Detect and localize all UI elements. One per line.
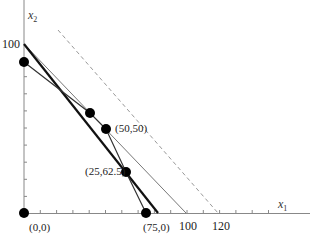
feasible-path (24, 62, 146, 213)
lp-diagram: 100 100 120 (0,0) (50,50) (25,62.5) (75,… (0, 0, 315, 238)
y-tick-100: 100 (2, 37, 20, 51)
point-vertex (85, 108, 95, 118)
point-50-50 (101, 124, 111, 134)
label-25-62-5: (25,62.5) (85, 165, 126, 178)
x-axis-label: x1 (277, 197, 287, 213)
label-50-50: (50,50) (115, 122, 147, 135)
point-y-intercept (19, 57, 29, 67)
point-75-0 (141, 208, 151, 218)
x-tick-100: 100 (179, 219, 197, 233)
point-origin (19, 208, 29, 218)
x-tick-120: 120 (212, 219, 230, 233)
label-75-0: (75,0) (143, 221, 170, 234)
diagram-canvas: 100 100 120 (0,0) (50,50) (25,62.5) (75,… (0, 0, 315, 238)
label-origin: (0,0) (29, 221, 50, 234)
y-axis-label: x2 (27, 8, 37, 24)
x-ticks (40, 210, 268, 213)
